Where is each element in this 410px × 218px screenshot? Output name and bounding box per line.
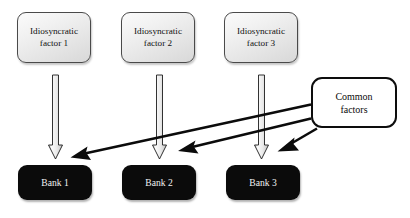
block-arrow-factor-1-to-bank-1: [49, 75, 63, 159]
factor-box-2-label-line2: factor 2: [134, 38, 182, 50]
bank-box-2[interactable]: Bank 2: [122, 165, 196, 200]
common-factors-box[interactable]: Common factors: [311, 77, 397, 128]
factor-box-1-label-line2: factor 1: [30, 38, 78, 50]
bank-box-2-label: Bank 2: [145, 177, 172, 188]
bank-box-3-label: Bank 3: [249, 177, 276, 188]
factor-box-3[interactable]: Idiosyncratic factor 3: [224, 12, 298, 63]
common-factors-label-line2: factors: [335, 103, 372, 116]
factor-box-1-label-line1: Idiosyncratic: [30, 26, 78, 38]
block-arrow-factor-2-to-bank-2: [153, 75, 167, 159]
factor-box-3-label-line1: Idiosyncratic: [237, 26, 285, 38]
factor-box-1[interactable]: Idiosyncratic factor 1: [17, 12, 91, 63]
factor-box-3-label: Idiosyncratic factor 3: [237, 26, 285, 49]
factor-box-1-label: Idiosyncratic factor 1: [30, 26, 78, 49]
bank-box-1[interactable]: Bank 1: [18, 165, 92, 200]
line-arrow-common-to-bank-3: [278, 129, 318, 152]
common-factors-label-line1: Common: [335, 90, 372, 103]
factor-box-2-label-line1: Idiosyncratic: [134, 26, 182, 38]
factor-box-2[interactable]: Idiosyncratic factor 2: [121, 12, 195, 63]
factor-box-3-label-line2: factor 3: [237, 38, 285, 50]
bank-box-3[interactable]: Bank 3: [226, 165, 300, 200]
factor-box-2-label: Idiosyncratic factor 2: [134, 26, 182, 49]
common-factors-label: Common factors: [335, 90, 372, 116]
bank-box-1-label: Bank 1: [41, 177, 68, 188]
diagram-canvas: Idiosyncratic factor 1 Idiosyncratic fac…: [0, 0, 410, 218]
